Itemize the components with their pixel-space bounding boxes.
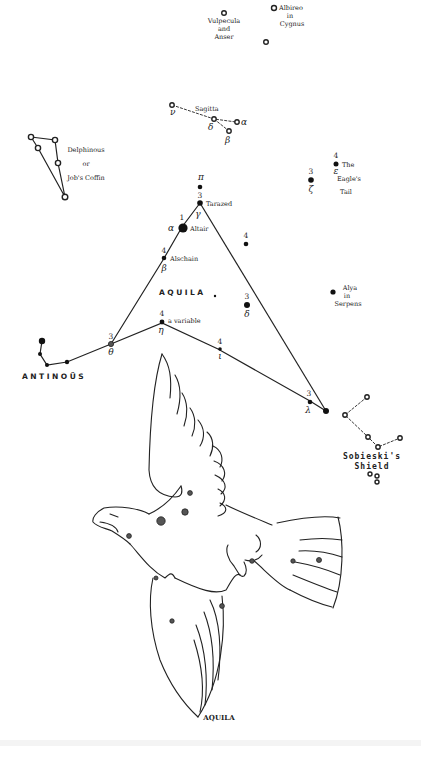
sagitta-delta-star [212,117,216,121]
faint-star [214,295,216,297]
lambda-mag: 3 [307,389,312,398]
aquila-star-chart: Vulpecula and Anser Albireo in Cygnus Sa… [0,0,421,760]
eagle-star-5 [250,559,255,564]
vulpecula-star [222,11,227,16]
eagle-star-8 [220,604,225,609]
aquila-stars: π 3 Tarazed γ 1 α Altair 4 4 Alschain β … [108,172,361,415]
vulpecula-group: Vulpecula and Anser [207,11,240,41]
sobieski-star-1 [365,395,369,399]
lambda-greek: λ [304,405,311,415]
eagle-star-altair [157,517,165,525]
eta-mag: 4 [160,309,165,318]
eagles-tail-group: 3 ζ 4 ε The Eagle's Tail [308,151,361,196]
sagitta-alpha-greek: α [241,117,247,127]
delphinus-label-1: Delphinous [67,146,104,154]
sobieski-star-2 [343,413,347,417]
aquila-lines [111,203,326,411]
eagle-feather-7 [213,446,222,467]
sagitta-label: Sagitta [195,105,219,113]
zeta-mag: 3 [309,167,314,176]
iota-mag: 4 [218,337,223,346]
vulpecula-label-3: Anser [213,33,234,41]
sagitta-alpha-star [235,120,239,124]
eagle-feather-4 [190,408,195,436]
altair-star [178,223,187,232]
sobieski-star-7 [375,474,379,478]
eagle-star-7 [317,558,322,563]
delphinus-group: Delphinous or Job's Coffin [28,134,104,199]
eagle-star-1 [188,491,193,496]
eta-star [160,320,165,325]
antinous-star-3 [38,352,42,356]
gamma-star [197,200,203,206]
alpha-mag: 1 [180,213,185,222]
serpens-label-3: Serpens [335,300,362,308]
beta-mag: 4 [162,246,167,255]
sobieski-star-5 [398,436,402,440]
south-star [323,408,329,414]
sobieski-star-4 [376,445,380,449]
antinous-group: ANTINOÜS [22,338,111,381]
unnamed-star [244,242,249,247]
aquila-constellation-label: AQUILA [159,288,206,297]
beta-greek: β [160,263,166,273]
eagle-tail-end [333,517,342,608]
eagle-lower-wing-top [175,574,240,592]
gamma-greek: γ [195,209,201,219]
sobieski-lines [345,397,400,447]
eagle-star-2 [182,509,188,515]
eagle-head [93,507,149,544]
eta-greek: η [158,325,164,335]
eagle-feather-2 [175,375,180,414]
eagles-tail-label-3: Tail [340,188,352,196]
cygnus-label-2: in [287,12,293,20]
tarazed-label: Tarazed [206,200,232,208]
eagle-feather-3 [182,393,187,426]
epsilon-mag: 4 [334,151,339,160]
sobieski-label-2: Shield [355,461,390,471]
sobieski-star-8 [375,480,379,484]
vulpecula-label-1: Vulpecula [207,17,240,25]
eagle-feather-5 [198,420,204,446]
eagle-lower-wing-outline [150,578,198,717]
sagitta-nu-greek: ν [170,107,176,117]
antinous-star-4 [39,338,45,344]
eagle-star-9 [170,619,174,623]
serpens-label-1: Alya [342,284,357,292]
cygnus-star-2 [264,40,269,45]
gamma-mag: 3 [198,191,203,200]
serpens-label-2: in [344,292,350,300]
antinous-lines [40,341,111,365]
aquila-east-line [200,203,326,411]
altair-label: Altair [189,225,209,233]
eagle-back [226,505,272,525]
eagle-star-6 [291,559,295,563]
eagle-feather-6 [207,432,213,456]
antinous-star-2 [45,363,49,367]
vulpecula-label-2: and [218,25,230,33]
eagles-tail-label-1: The [342,161,355,169]
alya-star [330,289,335,294]
unnamed-mag: 4 [244,231,249,240]
alschain-label: Alschain [169,255,198,263]
cygnus-label-1: Albireo [278,4,303,12]
eagle-star-4 [154,576,158,580]
sagitta-beta-star [227,129,231,133]
eagle-breast [130,544,175,578]
sagitta-group: Sagitta ν δ α β [170,103,247,145]
antinous-label: ANTINOÜS [22,372,86,381]
theta-mag: 3 [109,332,114,341]
zeta-star [308,177,314,183]
sagitta-beta-greek: β [224,135,230,145]
delphinus-star-2 [52,137,57,142]
lambda-star [308,400,313,405]
eagle-thigh [256,535,261,552]
theta-greek: θ [108,347,114,357]
antinous-star-1 [65,360,69,364]
cygnus-label-3: Cygnus [280,20,305,28]
delta-greek: δ [244,309,249,319]
delphinus-label-2: or [82,160,90,168]
pi-star [198,185,203,190]
eagle-tail-feathers [277,517,342,607]
delta-star [244,302,250,308]
